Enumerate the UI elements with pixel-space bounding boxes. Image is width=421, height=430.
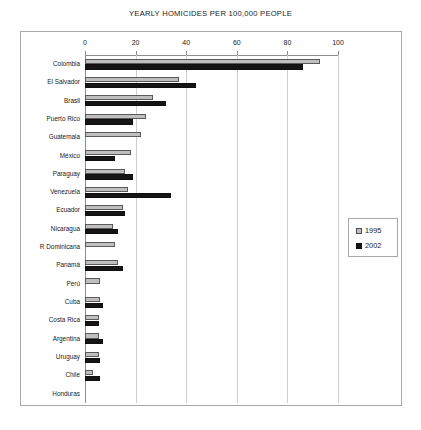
category-label-honduras: Honduras (52, 391, 80, 397)
bar-venezuela-1995 (85, 187, 128, 192)
bar-paraguay-2002 (85, 174, 133, 179)
x-tick-label-40: 40 (182, 39, 190, 46)
x-tick-label-60: 60 (233, 39, 241, 46)
bar-uruguay-2002 (85, 358, 100, 363)
bar-cuba-1995 (85, 297, 100, 302)
chart-legend: 1995 2002 (348, 218, 398, 257)
legend-label-1995: 1995 (365, 226, 381, 235)
bar-argentina-2002 (85, 339, 103, 344)
gridline-20 (136, 55, 137, 403)
bar-chile-1995 (85, 370, 93, 375)
bar-ecuador-1995 (85, 205, 123, 210)
category-label-r-dominicana: R Dominicana (40, 244, 80, 250)
x-tick-label-80: 80 (283, 39, 291, 46)
bar-colombia-2002 (85, 64, 303, 69)
x-tick-label-20: 20 (132, 39, 140, 46)
bar-argentina-1995 (85, 333, 99, 338)
bar-méxico-2002 (85, 156, 115, 161)
bar-puerto-rico-1995 (85, 114, 146, 119)
bar-cuba-2002 (85, 303, 103, 308)
category-label-venezuela: Venezuela (50, 189, 80, 195)
category-label-argentina: Argentina (53, 336, 80, 342)
category-label-méxico: México (60, 153, 80, 159)
bar-costa-rica-2002 (85, 321, 99, 326)
bar-brasil-1995 (85, 95, 153, 100)
category-label-colombia: Colombia (53, 61, 80, 67)
gridline-60 (237, 55, 238, 403)
category-label-perú: Perú (67, 281, 81, 287)
bar-nicaragua-2002 (85, 229, 118, 234)
legend-item-2002: 2002 (356, 241, 381, 250)
category-label-guatemala: Guatemala (49, 134, 80, 140)
gridline-40 (186, 55, 187, 403)
category-label-nicaragua: Nicaragua (51, 226, 80, 232)
bar-costa-rica-1995 (85, 315, 99, 320)
bar-colombia-1995 (85, 59, 320, 64)
legend-swatch-1995-icon (356, 228, 362, 234)
bar-el-salvador-1995 (85, 77, 179, 82)
gridline-80 (287, 55, 288, 403)
bar-uruguay-1995 (85, 352, 99, 357)
x-tick-0 (85, 51, 86, 56)
bar-nicaragua-1995 (85, 224, 113, 229)
bar-panamá-2002 (85, 266, 123, 271)
bar-r-dominicana-1995 (85, 242, 115, 247)
bar-el-salvador-2002 (85, 83, 196, 88)
category-label-cuba: Cuba (65, 299, 80, 305)
bar-guatemala-1995 (85, 132, 141, 137)
bar-venezuela-2002 (85, 193, 171, 198)
category-label-paraguay: Paraguay (53, 171, 80, 177)
category-label-brasil: Brasil (64, 98, 80, 104)
bar-paraguay-1995 (85, 169, 125, 174)
bar-ecuador-2002 (85, 211, 125, 216)
category-label-uruguay: Uruguay (56, 354, 80, 360)
legend-label-2002: 2002 (365, 241, 381, 250)
category-label-chile: Chile (65, 372, 80, 378)
category-label-ecuador: Ecuador (56, 207, 80, 213)
category-label-puerto-rico: Puerto Rico (47, 116, 80, 122)
bar-panamá-1995 (85, 260, 118, 265)
legend-item-1995: 1995 (356, 226, 381, 235)
legend-swatch-2002-icon (356, 243, 362, 249)
bar-méxico-1995 (85, 150, 131, 155)
bar-puerto-rico-2002 (85, 119, 133, 124)
x-tick-label-0: 0 (83, 39, 87, 46)
chart-title: YEARLY HOMICIDES PER 100,000 PEOPLE (0, 9, 421, 18)
category-label-el-salvador: El Salvador (47, 79, 80, 85)
bar-perú-1995 (85, 278, 100, 283)
category-label-costa-rica: Costa Rica (49, 317, 80, 323)
bar-brasil-2002 (85, 101, 166, 106)
bar-chile-2002 (85, 376, 100, 381)
gridline-100 (338, 55, 339, 403)
category-label-panamá: Panamá (56, 262, 80, 268)
chart-outer-frame (20, 31, 402, 406)
x-axis-line (85, 55, 338, 56)
chart-canvas: YEARLY HOMICIDES PER 100,000 PEOPLE 0204… (0, 0, 421, 430)
x-tick-label-100: 100 (332, 39, 344, 46)
